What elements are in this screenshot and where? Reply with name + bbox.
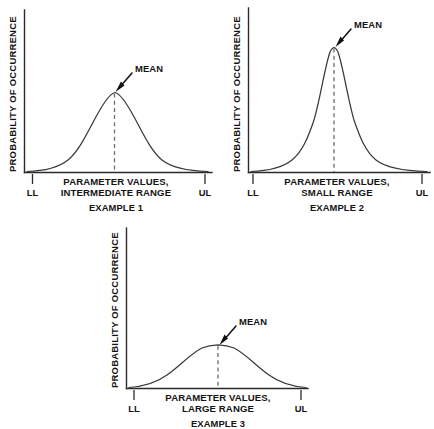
chart-1-caption: EXAMPLE 1 — [89, 202, 143, 213]
chart-3-upper-limit-label: UL — [295, 403, 308, 414]
chart-1-x-axis-label-line1: PARAMETER VALUES, — [63, 176, 169, 187]
chart-example-1: PROBABILITY OF OCCURRENCE MEAN LL UL PAR… — [7, 10, 212, 213]
chart-2-caption: EXAMPLE 2 — [310, 202, 364, 213]
chart-1-x-axis-label-line2: INTERMEDIATE RANGE — [61, 187, 172, 198]
chart-2-x-axis-label-line1: PARAMETER VALUES, — [284, 176, 390, 187]
chart-example-3: PROBABILITY OF OCCURRENCE MEAN LL UL PAR… — [109, 228, 308, 429]
chart-1-upper-limit-label: UL — [199, 187, 212, 198]
chart-2-upper-limit-label: UL — [416, 187, 429, 198]
chart-1-lower-limit-label: LL — [27, 187, 39, 198]
chart-3-mean-label: MEAN — [239, 316, 267, 327]
chart-3-x-axis-label-line2: LARGE RANGE — [182, 403, 254, 414]
chart-2-mean-arrow — [336, 29, 352, 47]
chart-1-y-axis-label: PROBABILITY OF OCCURRENCE — [7, 16, 18, 172]
chart-3-distribution-curve — [129, 345, 306, 388]
chart-1-mean-arrow — [116, 73, 133, 92]
chart-3-mean-arrow — [220, 326, 237, 345]
chart-1-mean-label: MEAN — [135, 63, 163, 74]
chart-2-lower-limit-label: LL — [247, 187, 259, 198]
chart-3-caption: EXAMPLE 3 — [191, 418, 245, 429]
chart-example-2: PROBABILITY OF OCCURRENCE MEAN LL UL PAR… — [231, 8, 430, 213]
chart-2-mean-label: MEAN — [354, 19, 382, 30]
chart-2-x-axis-label-line2: SMALL RANGE — [301, 187, 373, 198]
chart-3-y-axis-label: PROBABILITY OF OCCURRENCE — [109, 232, 120, 388]
chart-1-distribution-curve — [27, 93, 208, 172]
distribution-figure: PROBABILITY OF OCCURRENCE MEAN LL UL PAR… — [0, 0, 434, 429]
chart-3-lower-limit-label: LL — [128, 403, 140, 414]
chart-3-x-axis-label-line1: PARAMETER VALUES, — [165, 392, 271, 403]
chart-2-y-axis-label: PROBABILITY OF OCCURRENCE — [231, 16, 242, 172]
chart-2-distribution-curve — [251, 48, 427, 172]
